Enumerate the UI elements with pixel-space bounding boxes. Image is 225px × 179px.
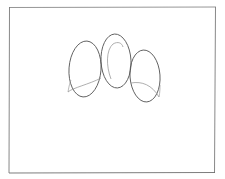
middle-oval xyxy=(100,33,133,88)
left-oval xyxy=(67,40,103,98)
right-oval xyxy=(128,49,162,103)
sketch-canvas xyxy=(0,0,225,179)
frame xyxy=(9,7,216,173)
